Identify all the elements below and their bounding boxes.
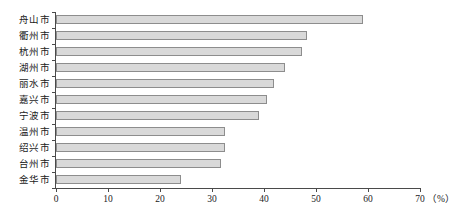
y-axis-tick: [52, 108, 56, 109]
bar-row: 湖州市: [56, 60, 420, 76]
x-axis-tick-label: 10: [103, 193, 113, 205]
x-axis-tick-label: 40: [259, 193, 269, 205]
bar-row: 绍兴市: [56, 140, 420, 156]
bar-row: 台州市: [56, 156, 420, 172]
y-axis-tick: [52, 76, 56, 77]
x-axis-tick: [264, 188, 265, 192]
category-label: 杭州市: [19, 44, 50, 60]
category-label: 衢州市: [19, 28, 50, 44]
bar: [56, 15, 363, 24]
category-label: 绍兴市: [19, 140, 50, 156]
bar-row: 丽水市: [56, 76, 420, 92]
category-label: 金华市: [19, 172, 50, 188]
x-axis-tick-label: 20: [155, 193, 165, 205]
x-axis-unit-label: （%）: [427, 193, 455, 205]
x-axis-tick-label: 70: [415, 193, 425, 205]
x-axis-tick: [316, 188, 317, 192]
x-axis-line: [55, 188, 421, 189]
bar: [56, 63, 285, 72]
x-axis-tick: [108, 188, 109, 192]
x-axis-tick-label: 60: [363, 193, 373, 205]
y-axis-tick: [52, 12, 56, 13]
y-axis-tick: [52, 44, 56, 45]
y-axis-tick: [52, 172, 56, 173]
y-axis-tick: [52, 156, 56, 157]
x-axis-tick: [420, 188, 421, 192]
x-axis-tick: [56, 188, 57, 192]
bar: [56, 95, 267, 104]
bar-row: 舟山市: [56, 12, 420, 28]
bar: [56, 31, 307, 40]
x-axis-tick: [160, 188, 161, 192]
y-axis-tick: [52, 140, 56, 141]
bar: [56, 159, 221, 168]
bar: [56, 79, 274, 88]
category-label: 宁波市: [19, 108, 50, 124]
bar: [56, 175, 181, 184]
y-axis-tick: [52, 28, 56, 29]
bar-row: 温州市: [56, 124, 420, 140]
bar: [56, 143, 225, 152]
bar: [56, 127, 225, 136]
category-label: 台州市: [19, 156, 50, 172]
x-axis-tick: [212, 188, 213, 192]
horizontal-bar-chart: 舟山市衢州市杭州市湖州市丽水市嘉兴市宁波市温州市绍兴市台州市金华市 010203…: [0, 0, 470, 213]
category-label: 嘉兴市: [19, 92, 50, 108]
category-label: 舟山市: [19, 12, 50, 28]
category-label: 湖州市: [19, 60, 50, 76]
x-axis-tick-label: 0: [54, 193, 59, 205]
bar: [56, 111, 259, 120]
plot-area: 舟山市衢州市杭州市湖州市丽水市嘉兴市宁波市温州市绍兴市台州市金华市: [56, 12, 420, 188]
y-axis-tick: [52, 92, 56, 93]
bar-row: 杭州市: [56, 44, 420, 60]
x-axis-tick-label: 30: [207, 193, 217, 205]
bar-row: 宁波市: [56, 108, 420, 124]
bar-row: 金华市: [56, 172, 420, 188]
category-label: 丽水市: [19, 76, 50, 92]
x-axis-tick: [368, 188, 369, 192]
bar-row: 嘉兴市: [56, 92, 420, 108]
category-label: 温州市: [19, 124, 50, 140]
y-axis-tick: [52, 124, 56, 125]
y-axis-tick: [52, 60, 56, 61]
bar-row: 衢州市: [56, 28, 420, 44]
x-axis-tick-label: 50: [311, 193, 321, 205]
bar: [56, 47, 302, 56]
